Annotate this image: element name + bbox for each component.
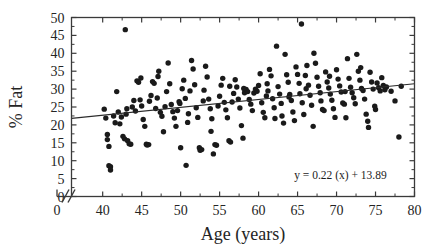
scatter-point	[185, 120, 190, 125]
scatter-point	[214, 143, 219, 148]
scatter-point	[345, 56, 350, 61]
scatter-point	[348, 85, 353, 90]
scatter-point	[292, 118, 297, 123]
scatter-point	[363, 111, 368, 116]
scatter-point	[105, 132, 110, 137]
x-tick-label: 50	[174, 203, 188, 218]
scatter-point	[239, 123, 244, 128]
scatter-chart-figure: 4045505560657075800 05101520253035404550…	[0, 0, 438, 251]
scatter-point	[217, 94, 222, 99]
scatter-point	[326, 85, 331, 90]
scatter-point	[321, 108, 326, 113]
scatter-point	[165, 60, 170, 65]
scatter-point	[189, 58, 194, 63]
scatter-point	[223, 107, 228, 112]
scatter-point	[358, 65, 363, 70]
scatter-point	[262, 115, 267, 120]
scatter-point	[261, 110, 266, 115]
scatter-point	[295, 72, 300, 77]
scatter-point	[159, 114, 164, 119]
scatter-point	[362, 96, 367, 101]
scatter-point	[281, 120, 286, 125]
scatter-point	[114, 89, 119, 94]
scatter-point	[124, 106, 129, 111]
scatter-point	[156, 69, 161, 74]
scatter-point	[290, 109, 295, 114]
scatter-point	[282, 52, 287, 57]
scatter-point	[279, 101, 284, 106]
x-tick-label: 40	[96, 203, 110, 218]
y-tick-label: 40	[51, 46, 65, 61]
scatter-point	[177, 101, 182, 106]
scatter-point	[286, 80, 291, 85]
scatter-point	[274, 43, 279, 48]
scatter-point	[131, 98, 136, 103]
scatter-point	[203, 63, 208, 68]
scatter-point	[299, 21, 304, 26]
scatter-point	[208, 106, 213, 111]
scatter-point	[155, 74, 160, 79]
scatter-point	[183, 163, 188, 168]
scatter-point	[296, 81, 301, 86]
x-tick-label: 60	[252, 203, 266, 218]
scatter-point	[170, 109, 175, 114]
scatter-point	[323, 69, 328, 74]
scatter-point	[231, 91, 236, 96]
scatter-point	[178, 145, 183, 150]
scatter-point	[256, 83, 261, 88]
scatter-point	[119, 114, 124, 119]
scatter-point	[334, 67, 339, 72]
scatter-point	[112, 120, 117, 125]
scatter-point	[137, 97, 142, 102]
scatter-point	[233, 77, 238, 82]
scatter-point	[250, 108, 255, 113]
scatter-point	[161, 129, 166, 134]
scatter-point	[201, 87, 206, 92]
y-tick-label: 35	[51, 64, 65, 79]
scatter-point	[354, 52, 359, 57]
scatter-point	[303, 73, 308, 78]
scatter-point	[357, 77, 362, 82]
scatter-point	[175, 108, 180, 113]
scatter-point	[310, 124, 315, 129]
scatter-point	[146, 142, 151, 147]
scatter-point	[264, 81, 269, 86]
scatter-point	[128, 142, 133, 147]
scatter-point	[284, 72, 289, 77]
scatter-point	[105, 137, 110, 142]
scatter-point	[155, 95, 160, 100]
scatter-point	[365, 119, 370, 124]
scatter-point	[272, 116, 277, 121]
scatter-point	[147, 99, 152, 104]
x-tick-label: 45	[135, 203, 149, 218]
scatter-point	[392, 98, 397, 103]
scatter-point	[335, 76, 340, 81]
x-tick-label: 65	[291, 203, 305, 218]
scatter-point	[265, 88, 270, 93]
scatter-point	[259, 100, 264, 105]
scatter-point	[195, 115, 200, 120]
scatter-point	[241, 86, 246, 91]
scatter-point	[108, 167, 113, 172]
scatter-point	[173, 124, 178, 129]
data-points-layer	[102, 21, 404, 172]
scatter-point	[332, 115, 337, 120]
scatter-point	[304, 63, 309, 68]
regression-equation: y = 0.22 (x) + 13.89	[294, 169, 387, 182]
scatter-point	[117, 121, 122, 126]
scatter-point	[141, 117, 146, 122]
scatter-point	[309, 103, 314, 108]
x-tick-label: 55	[213, 203, 227, 218]
scatter-point	[206, 96, 211, 101]
scatter-point	[329, 98, 334, 103]
scatter-point	[313, 61, 318, 66]
scatter-point	[172, 115, 177, 120]
scatter-point	[183, 96, 188, 101]
scatter-point	[248, 101, 253, 106]
scatter-point	[186, 111, 191, 116]
scatter-point	[388, 89, 393, 94]
scatter-point	[139, 103, 144, 108]
scatter-point	[199, 147, 204, 152]
scatter-point	[148, 93, 153, 98]
scatter-point	[201, 98, 206, 103]
